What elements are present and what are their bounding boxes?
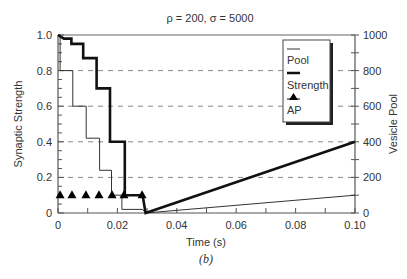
y2-tick-label: 200 — [363, 171, 381, 183]
chart: ρ = 200, σ = 5000 00.020.040.060.080.10 … — [0, 0, 407, 279]
x-axis-ticks: 00.020.040.060.080.10 — [55, 208, 366, 231]
y-tick-label: 0.4 — [37, 136, 52, 148]
legend-ap-label: AP — [287, 104, 302, 116]
y-tick-label: 0 — [46, 207, 52, 219]
y2-axis-title: Vesicle Pool — [387, 94, 399, 154]
y2-axis-ticks: 02004006008001000 — [351, 29, 387, 219]
y2-tick-label: 400 — [363, 136, 381, 148]
x-tick-label: 0.10 — [344, 219, 365, 231]
legend: Pool Strength AP — [283, 40, 333, 125]
y2-tick-label: 0 — [363, 207, 369, 219]
ap-marker — [108, 190, 117, 198]
ap-marker — [67, 190, 76, 198]
legend-pool-label: Pool — [287, 54, 309, 66]
y2-tick-label: 800 — [363, 65, 381, 77]
y2-tick-label: 600 — [363, 100, 381, 112]
x-axis-title: Time (s) — [186, 236, 226, 248]
x-tick-label: 0.02 — [107, 219, 128, 231]
x-tick-label: 0 — [55, 219, 61, 231]
x-tick-label: 0.06 — [225, 219, 246, 231]
legend-strength-label: Strength — [287, 79, 329, 91]
figure-caption: (b) — [199, 252, 213, 266]
y-tick-label: 0.2 — [37, 171, 52, 183]
ap-marker — [81, 190, 90, 198]
chart-title: ρ = 200, σ = 5000 — [166, 12, 253, 24]
y2-tick-label: 1000 — [363, 29, 387, 41]
ap-marker — [56, 190, 65, 198]
x-tick-label: 0.08 — [285, 219, 306, 231]
y-tick-label: 0.8 — [37, 65, 52, 77]
y-tick-label: 1.0 — [37, 29, 52, 41]
y-tick-label: 0.6 — [37, 100, 52, 112]
x-tick-label: 0.04 — [166, 219, 187, 231]
ap-marker — [94, 190, 103, 198]
y-axis-title: Synaptic Strength — [12, 81, 24, 168]
